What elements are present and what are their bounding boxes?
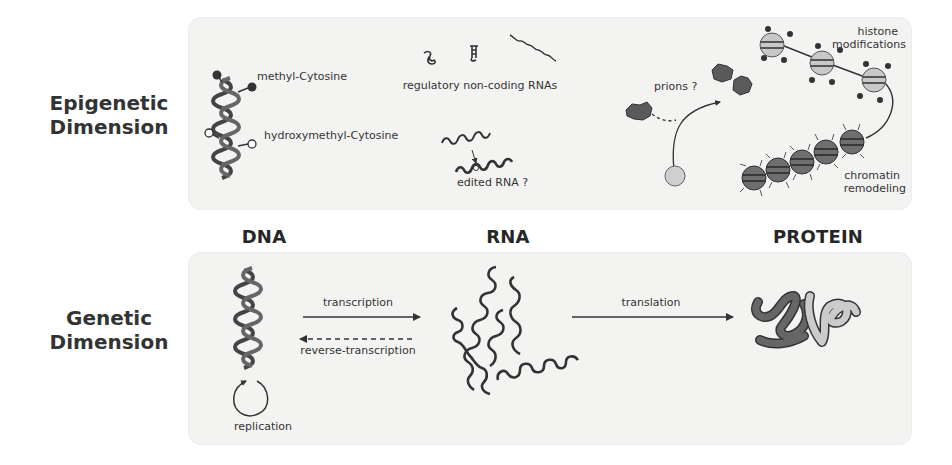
column-header-rna: RNA xyxy=(486,226,529,247)
translation-label: translation xyxy=(621,296,680,309)
hydroxymethyl-cytosine-label: hydroxymethyl-Cytosine xyxy=(264,129,398,142)
reverse-transcription-label: reverse-transcription xyxy=(300,344,415,357)
chromatin-line1: chromatin xyxy=(844,169,906,182)
replication-label: replication xyxy=(234,420,292,433)
transcription-label: transcription xyxy=(323,296,393,309)
histone-modifications-label: histone modifications xyxy=(832,25,906,51)
genetic-line2: Dimension xyxy=(24,330,194,354)
epigenetic-line1: Epigenetic xyxy=(24,91,194,115)
genetic-line1: Genetic xyxy=(24,306,194,330)
ncrna-label: regulatory non-coding RNAs xyxy=(403,79,557,92)
chromatin-line2: remodeling xyxy=(844,182,906,195)
methyl-cytosine-label: methyl-Cytosine xyxy=(257,70,347,83)
epigenetic-line2: Dimension xyxy=(24,115,194,139)
histone-line1: histone xyxy=(832,25,906,38)
edited-rna-label: edited RNA ? xyxy=(457,176,528,189)
epigenetic-panel xyxy=(188,17,912,210)
epigenetic-dimension-label: Epigenetic Dimension xyxy=(24,91,194,139)
column-header-protein: PROTEIN xyxy=(773,226,863,247)
chromatin-remodeling-label: chromatin remodeling xyxy=(844,169,906,195)
column-header-dna: DNA xyxy=(242,226,287,247)
genetic-dimension-label: Genetic Dimension xyxy=(24,306,194,354)
genetic-panel xyxy=(188,252,912,445)
prions-label: prions ? xyxy=(654,80,697,93)
histone-line2: modifications xyxy=(832,38,906,51)
